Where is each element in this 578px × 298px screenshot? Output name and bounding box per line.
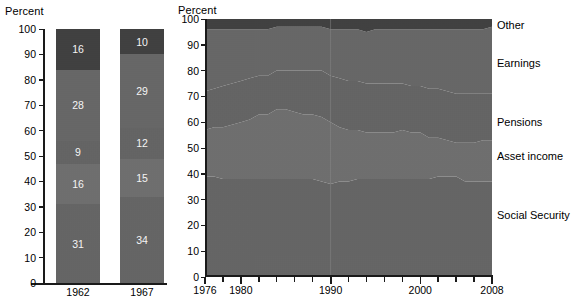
- bar-y-tick-10: 10: [8, 252, 36, 264]
- area-x-tick-mark-1998: [402, 277, 403, 282]
- bar-y-tick-40: 40: [8, 175, 36, 187]
- area-x-tick-label-2000: 2000: [409, 284, 432, 296]
- legend-label-social-security: Social Security: [497, 209, 570, 221]
- bar-category-label-1967: 1967: [130, 286, 153, 298]
- area-y-tick-30: 30: [175, 194, 199, 206]
- area-chart-svg: [205, 19, 492, 277]
- bar-segment-value: 9: [75, 146, 81, 158]
- area-chart-y-axis: [205, 19, 207, 277]
- area-x-tick-label-1976: 1976: [193, 284, 216, 296]
- bar-segment-value: 31: [72, 238, 84, 250]
- area-y-tick-90: 90: [175, 39, 199, 51]
- bar-segment-other: 10: [120, 29, 164, 54]
- bar-chart-x-axis: [31, 283, 167, 285]
- bar-segment-value: 10: [136, 36, 148, 48]
- area-x-tick-mark-1980: [240, 277, 242, 284]
- bar-y-tick-60: 60: [8, 125, 36, 137]
- bar-segment-pensions: 9: [56, 141, 100, 164]
- area-y-tick-70: 70: [175, 90, 199, 102]
- bar-segment-pensions: 12: [120, 128, 164, 158]
- stacked-area-chart-panel: Percent 1009080706050403020100 197619801…: [175, 0, 578, 298]
- bar-segment-earnings: 28: [56, 70, 100, 141]
- area-y-tick-10: 10: [175, 245, 199, 257]
- legend-label-other: Other: [497, 19, 525, 31]
- area-x-tick-mark-1978: [222, 277, 223, 282]
- area-y-tick-60: 60: [175, 116, 199, 128]
- area-x-tick-mark-2000: [420, 277, 422, 284]
- bar-segment-value: 16: [72, 43, 84, 55]
- bar-y-tick-100: 100: [8, 23, 36, 35]
- bar-1962: 311692816: [56, 29, 100, 283]
- area-y-tick-80: 80: [175, 65, 199, 77]
- bar-segment-social-security: 31: [56, 204, 100, 283]
- bar-segment-earnings: 29: [120, 54, 164, 128]
- area-x-tick-mark-2004: [455, 277, 456, 282]
- bar-y-tick-50: 50: [8, 150, 36, 162]
- bar-y-tick-80: 80: [8, 74, 36, 86]
- bar-segment-value: 29: [136, 85, 148, 97]
- area-x-tick-mark-2008: [491, 277, 493, 284]
- legend-label-asset-income: Asset income: [497, 150, 563, 162]
- area-x-tick-label-2008: 2008: [480, 284, 503, 296]
- bar-segment-value: 12: [136, 137, 148, 149]
- legend-label-earnings: Earnings: [497, 57, 540, 69]
- bar-y-tick-20: 20: [8, 226, 36, 238]
- bar-segment-value: 34: [136, 234, 148, 246]
- bar-chart-axis-title: Percent: [5, 5, 44, 17]
- area-x-tick-mark-1976: [204, 277, 206, 284]
- bar-segment-asset-income: 15: [120, 159, 164, 197]
- bar-y-tick-0: 0: [8, 277, 36, 289]
- area-x-tick-mark-2002: [437, 277, 438, 282]
- bar-chart-plot-area: 3116928163415122910: [43, 29, 165, 283]
- area-y-tick-50: 50: [175, 142, 199, 154]
- stacked-bar-chart-panel: Percent 1009080706050403020100 311692816…: [0, 0, 175, 298]
- area-y-tick-0: 0: [175, 271, 199, 283]
- area-x-tick-mark-1986: [294, 277, 295, 282]
- area-y-tick-40: 40: [175, 168, 199, 180]
- area-x-tick-mark-1996: [384, 277, 385, 282]
- bar-segment-value: 28: [72, 99, 84, 111]
- area-x-tick-mark-1990: [330, 277, 332, 284]
- bar-segment-value: 16: [72, 178, 84, 190]
- bar-segment-value: 15: [136, 172, 148, 184]
- area-x-tick-mark-1982: [258, 277, 259, 282]
- area-y-tick-20: 20: [175, 219, 199, 231]
- area-band-social-security: [205, 176, 492, 277]
- bar-y-tick-70: 70: [8, 99, 36, 111]
- area-x-tick-mark-1992: [348, 277, 349, 282]
- bar-category-label-1962: 1962: [66, 286, 89, 298]
- bar-y-tick-90: 90: [8, 48, 36, 60]
- area-x-tick-mark-1994: [366, 277, 367, 282]
- area-x-tick-label-1980: 1980: [229, 284, 252, 296]
- area-x-tick-mark-1984: [276, 277, 277, 282]
- area-x-tick-mark-1988: [312, 277, 313, 282]
- bar-segment-other: 16: [56, 29, 100, 70]
- legend-label-pensions: Pensions: [497, 116, 542, 128]
- bar-1967: 3415122910: [120, 29, 164, 283]
- bar-y-tick-30: 30: [8, 201, 36, 213]
- area-chart-plot-area: [205, 19, 492, 277]
- area-x-tick-mark-2006: [473, 277, 474, 282]
- area-x-tick-label-1990: 1990: [319, 284, 342, 296]
- bar-segment-social-security: 34: [120, 197, 164, 283]
- area-y-tick-100: 100: [175, 13, 199, 25]
- bar-segment-asset-income: 16: [56, 164, 100, 205]
